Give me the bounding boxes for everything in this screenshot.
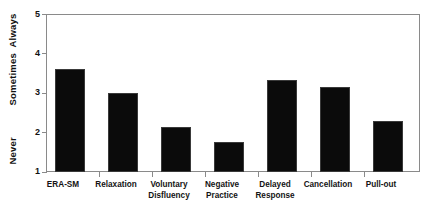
y-axis-label-never: Never <box>7 141 18 165</box>
bar-voluntary-disfluency <box>161 127 191 172</box>
bar-era-sm <box>55 69 85 172</box>
y-tick-label-5: 5 <box>26 10 40 19</box>
x-tick-mark-5 <box>311 172 312 177</box>
x-tick-mark-2 <box>152 172 153 177</box>
x-axis-label-pull-out: Pull-out <box>348 180 414 191</box>
y-axis-label-always: Always <box>7 24 18 48</box>
x-tick-mark-3 <box>205 172 206 177</box>
y-tick-mark-1 <box>42 172 47 173</box>
x-tick-mark-6 <box>364 172 365 177</box>
y-axis-category-labels: Always Sometimes Never <box>0 0 26 180</box>
x-tick-mark-4 <box>258 172 259 177</box>
x-tick-mark-1 <box>99 172 100 177</box>
y-tick-label-1: 1 <box>26 167 40 176</box>
bar-delayed-response <box>267 80 297 172</box>
bar-relaxation <box>108 93 138 172</box>
bar-negative-practice <box>214 142 244 172</box>
bar-pull-out <box>373 121 403 172</box>
y-tick-label-4: 4 <box>26 49 40 58</box>
bar-chart: Always Sometimes Never 5 4 3 2 1 ERA-SM … <box>0 0 435 209</box>
bars-container <box>46 14 420 172</box>
y-tick-label-3: 3 <box>26 88 40 97</box>
bar-cancellation <box>320 87 350 172</box>
y-axis-label-sometimes: Sometimes <box>7 82 18 106</box>
y-tick-label-2: 2 <box>26 128 40 137</box>
